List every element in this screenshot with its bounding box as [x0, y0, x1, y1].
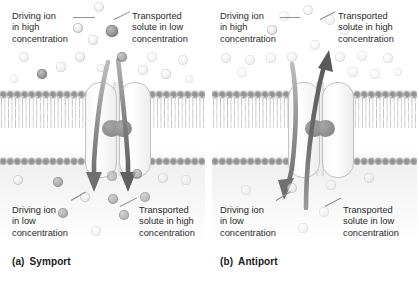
driving-ion-particle	[326, 180, 335, 189]
panel-symport: Driving ion in high concentration Transp…	[0, 0, 205, 282]
driving-ion-particle	[357, 51, 367, 61]
driving-ion-particle	[287, 52, 297, 62]
label-top-left-b: Driving ion in high concentration	[220, 11, 282, 45]
driving-ion-particle	[370, 69, 379, 78]
driving-ion-particle	[97, 64, 106, 73]
driving-ion-particle	[383, 53, 393, 63]
driving-ion-particle	[138, 65, 148, 75]
transported-solute-particle	[37, 69, 48, 80]
driving-ion-particle	[19, 52, 29, 62]
label-top-right-b: Transported solute in high concentration	[338, 11, 414, 45]
solute-arrowhead-b	[318, 50, 333, 72]
leader-top-left-a	[73, 17, 95, 18]
caption-symport: (a)Symport	[12, 256, 71, 267]
driving-ion-particle	[73, 23, 83, 33]
driving-ion-particle	[56, 62, 65, 71]
driving-ion-particle	[13, 175, 23, 185]
driving-ion-particle	[319, 207, 328, 216]
caption-tag-a: (a)	[12, 256, 25, 267]
driving-ion-particle	[185, 75, 194, 84]
driving-ion-particle	[241, 185, 250, 194]
label-top-right-a: Transported solute in low concentration	[132, 11, 204, 45]
driving-ion-particle	[181, 175, 190, 184]
caption-label-b: Antiport	[238, 256, 278, 267]
transported-solute-particle	[117, 52, 127, 62]
driving-ion-particle	[94, 2, 104, 12]
label-bottom-right-b: Transported solute in low concentration	[343, 205, 415, 239]
leader-top-right-a	[114, 11, 131, 20]
label-bottom-left-b: Driving ion in low concentration	[220, 205, 282, 239]
transported-solute-particle	[140, 192, 150, 202]
transported-solute-particle	[108, 194, 118, 204]
driving-ion-particle	[75, 52, 85, 62]
driving-ion-particle	[221, 53, 231, 63]
driving-ion-particle	[158, 173, 168, 183]
driving-ion-particle	[310, 40, 320, 50]
driving-ion-particle	[245, 55, 255, 65]
driving-ion-particle	[161, 69, 170, 78]
driving-ion-particle	[266, 53, 275, 62]
transported-solute-particle	[119, 210, 129, 220]
label-bottom-right-a: Transported solute in high concentration	[139, 205, 209, 239]
transport-figure: Driving ion in high concentration Transp…	[0, 0, 419, 282]
driving-ion-particle	[88, 35, 97, 44]
driving-ion-particle	[394, 68, 403, 77]
leader-top-left-b	[280, 17, 300, 18]
caption-antiport: (b)Antiport	[220, 256, 278, 267]
label-bottom-left-a: Driving ion in low concentration	[12, 205, 74, 239]
driving-ion-particle	[348, 67, 357, 76]
label-top-left-a: Driving ion in high concentration	[12, 11, 74, 45]
binding-knob-right	[113, 120, 132, 137]
driving-ion-particle	[178, 55, 188, 65]
driving-ion-particle	[147, 52, 156, 61]
transported-solute-particle	[132, 169, 142, 179]
caption-label-a: Symport	[30, 256, 71, 267]
driving-ion-particle	[237, 67, 246, 76]
driving-ion-particle	[298, 223, 307, 232]
driving-ion-particle	[10, 75, 19, 84]
caption-tag-b: (b)	[220, 256, 233, 267]
driving-ion-particle	[91, 226, 100, 235]
driving-ion-particle	[335, 52, 345, 62]
driving-ion-particle	[303, 5, 313, 15]
driving-ion-particle	[364, 173, 374, 183]
binding-knob-right	[316, 120, 335, 137]
transported-solute-particle	[107, 171, 116, 180]
transported-solute-particle	[106, 25, 117, 36]
panel-antiport: Driving ion in high concentration Transp…	[212, 0, 417, 282]
